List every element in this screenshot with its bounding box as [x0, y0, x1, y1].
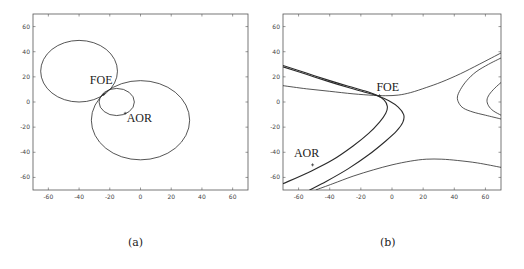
y-tick-label: -60 — [20, 173, 30, 180]
y-tick-label: 40 — [272, 48, 280, 55]
plot-b: -60-40-2002040606040200-20-40-60FOEAOR — [262, 0, 524, 230]
right-inner-curve — [487, 83, 501, 116]
y-tick-label: -60 — [270, 173, 280, 180]
y-tick-label: 20 — [272, 73, 280, 80]
x-tick-label: -40 — [74, 193, 84, 200]
x-tick-label: 40 — [198, 193, 206, 200]
x-tick-label: 60 — [229, 193, 237, 200]
x-tick-label: 0 — [139, 193, 143, 200]
axes-frame — [33, 14, 248, 190]
y-tick-label: -20 — [270, 123, 280, 130]
annotation-aor: AOR — [127, 111, 152, 125]
caption-b: (b) — [380, 236, 396, 249]
y-tick-label: 0 — [26, 98, 30, 105]
x-tick-label: 0 — [390, 193, 394, 200]
plot-a: -60-40-2002040606040200-20-40-60FOEAOR — [0, 0, 262, 230]
plot-curves — [41, 40, 190, 159]
x-tick-label: 20 — [167, 193, 175, 200]
x-tick-label: 20 — [419, 193, 427, 200]
annotation-foe: FOE — [90, 73, 113, 87]
y-tick-label: -20 — [20, 123, 30, 130]
y-tick-label: -40 — [20, 148, 30, 155]
x-tick-label: -40 — [325, 193, 335, 200]
x-tick-label: -60 — [43, 193, 53, 200]
y-tick-label: 60 — [272, 23, 280, 30]
y-tick-label: 60 — [22, 23, 30, 30]
panel-a: -60-40-2002040606040200-20-40-60FOEAOR (… — [0, 0, 262, 269]
x-tick-label: 60 — [482, 193, 490, 200]
x-tick-label: 40 — [450, 193, 458, 200]
y-tick-label: 40 — [22, 48, 30, 55]
panel-b: -60-40-2002040606040200-20-40-60FOEAOR (… — [262, 0, 524, 269]
caption-a: (a) — [128, 236, 143, 249]
y-tick-label: -40 — [270, 148, 280, 155]
x-tick-label: -20 — [105, 193, 115, 200]
circle-upper-left — [41, 40, 118, 102]
x-tick-label: -20 — [356, 193, 366, 200]
y-tick-label: 0 — [276, 98, 280, 105]
lower-branch — [316, 159, 501, 190]
x-tick-label: -60 — [294, 193, 304, 200]
plot-curves — [283, 53, 501, 190]
annotation-foe: FOE — [376, 80, 399, 94]
annotation-aor: AOR — [294, 146, 319, 160]
y-tick-label: 20 — [22, 73, 30, 80]
